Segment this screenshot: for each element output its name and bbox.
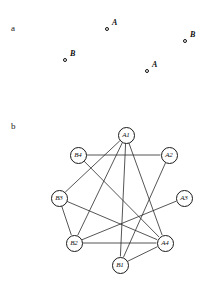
- graph-node-label: A3: [180, 195, 187, 202]
- graph-node-label: B4: [74, 152, 81, 159]
- graph-node-a3[interactable]: A3: [176, 190, 193, 207]
- graph-edge: [129, 143, 162, 235]
- graph-node-a4[interactable]: A4: [157, 235, 174, 252]
- graph-node-b3[interactable]: B3: [51, 190, 68, 207]
- panel-b-graph: b A1A2A3A4B1B2B3B4: [0, 0, 213, 291]
- figure-container: a ABBA b A1A2A3A4B1B2B3B4: [0, 0, 213, 291]
- graph-node-label: A4: [161, 240, 168, 247]
- graph-node-label: A1: [122, 132, 129, 139]
- graph-node-b4[interactable]: B4: [70, 147, 87, 164]
- graph-node-label: B1: [116, 262, 123, 269]
- graph-node-label: B2: [70, 240, 77, 247]
- graph-node-b1[interactable]: B1: [112, 257, 129, 274]
- graph-edge: [120, 143, 125, 256]
- graph-node-a2[interactable]: A2: [161, 147, 178, 164]
- graph-node-a1[interactable]: A1: [118, 127, 135, 144]
- graph-node-label: A2: [165, 152, 172, 159]
- graph-node-label: B3: [55, 195, 62, 202]
- graph-edge: [67, 201, 157, 239]
- graph-edge-layer: [0, 0, 213, 291]
- graph-node-b2[interactable]: B2: [66, 235, 83, 252]
- graph-edge: [62, 206, 72, 235]
- graph-edge: [128, 247, 158, 262]
